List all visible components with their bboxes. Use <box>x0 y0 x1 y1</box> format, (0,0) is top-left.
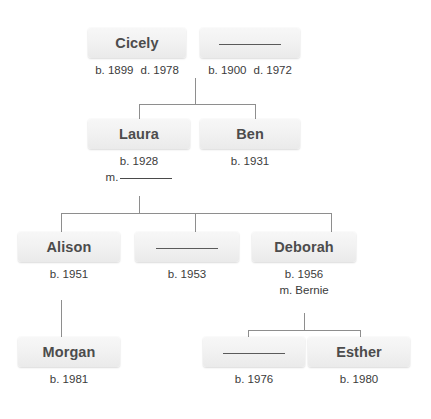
person-dates: b. 1956 <box>252 267 356 282</box>
person-name: Esther <box>336 345 382 360</box>
person-dates: b. 1981 <box>18 372 120 387</box>
person-dates: b. 1953 <box>135 267 239 282</box>
birth-year: b. 1980 <box>340 373 378 385</box>
person-name-box[interactable]: Ben <box>200 119 300 149</box>
person-name-box[interactable] <box>200 28 300 58</box>
blank-name-placeholder-icon <box>223 353 285 354</box>
person-name-box[interactable]: Cicely <box>88 28 186 58</box>
person-node-alison[interactable]: Alison b. 1951 <box>18 232 120 282</box>
birth-year: b. 1928 <box>120 155 158 167</box>
person-dates: b. 1899d. 1978 <box>88 63 186 78</box>
connector-line <box>61 213 332 214</box>
birth-year: b. 1956 <box>285 268 323 280</box>
birth-year: b. 1899 <box>95 64 133 76</box>
marriage-label: m. <box>88 170 190 185</box>
person-name: Alison <box>47 240 92 255</box>
connector-line <box>248 330 249 337</box>
death-year: d. 1972 <box>254 64 292 76</box>
person-node-child-1953[interactable]: b. 1953 <box>135 232 239 282</box>
blank-name-placeholder-icon <box>219 44 281 45</box>
birth-year: b. 1900 <box>208 64 246 76</box>
birth-year: b. 1951 <box>50 268 88 280</box>
person-dates: b. 1980 <box>308 372 410 387</box>
person-node-child-1976[interactable]: b. 1976 <box>203 337 305 387</box>
person-name-box[interactable] <box>135 232 239 262</box>
connector-line <box>195 78 196 104</box>
person-node-morgan[interactable]: Morgan b. 1981 <box>18 337 120 387</box>
person-dates: b. 1900d. 1972 <box>200 63 300 78</box>
person-name: Morgan <box>43 345 96 360</box>
connector-line <box>139 104 140 119</box>
connector-line <box>139 196 140 213</box>
marriage-spouse: m. Bernie <box>279 284 328 296</box>
birth-year: b. 1931 <box>231 155 269 167</box>
person-name: Laura <box>119 127 159 142</box>
marriage-label: m. Bernie <box>252 283 356 298</box>
connector-line <box>61 213 62 232</box>
connector-line <box>304 313 305 330</box>
blank-name-placeholder-icon <box>156 248 218 249</box>
blank-spouse-placeholder-icon <box>120 178 172 179</box>
birth-year: b. 1953 <box>168 268 206 280</box>
person-node-cicely[interactable]: Cicely b. 1899d. 1978 <box>88 28 186 78</box>
person-node-deborah[interactable]: Deborah b. 1956 m. Bernie <box>252 232 356 298</box>
person-node-laura[interactable]: Laura b. 1928 m. <box>88 119 190 185</box>
person-node-ben[interactable]: Ben b. 1931 <box>200 119 300 169</box>
connector-line <box>255 104 256 119</box>
person-name-box[interactable]: Alison <box>18 232 120 262</box>
connector-line <box>195 213 196 232</box>
person-name-box[interactable]: Laura <box>88 119 190 149</box>
person-name-box[interactable] <box>203 337 305 367</box>
person-name-box[interactable]: Morgan <box>18 337 120 367</box>
person-dates: b. 1931 <box>200 154 300 169</box>
person-node-spouse-1900[interactable]: b. 1900d. 1972 <box>200 28 300 78</box>
connector-line <box>139 104 256 105</box>
person-name: Ben <box>236 127 264 142</box>
person-name-box[interactable]: Esther <box>308 337 410 367</box>
person-dates: b. 1976 <box>203 372 305 387</box>
person-name-box[interactable]: Deborah <box>252 232 356 262</box>
connector-line <box>61 300 62 337</box>
death-year: d. 1978 <box>141 64 179 76</box>
person-name: Deborah <box>274 240 334 255</box>
person-node-esther[interactable]: Esther b. 1980 <box>308 337 410 387</box>
connector-line <box>248 330 361 331</box>
person-dates: b. 1928 <box>88 154 190 169</box>
connector-line <box>360 330 361 337</box>
family-tree-diagram: Cicely b. 1899d. 1978 b. 1900d. 1972 Lau… <box>0 0 431 419</box>
person-name: Cicely <box>115 36 158 51</box>
birth-year: b. 1981 <box>50 373 88 385</box>
marriage-prefix: m. <box>106 171 119 183</box>
connector-line <box>331 213 332 232</box>
person-dates: b. 1951 <box>18 267 120 282</box>
birth-year: b. 1976 <box>235 373 273 385</box>
